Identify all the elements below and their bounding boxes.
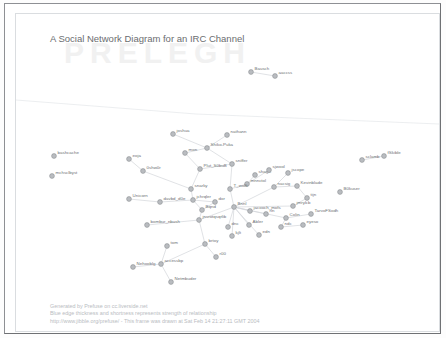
node-dot[interactable]	[131, 265, 136, 270]
graph-node[interactable]: Colin	[284, 212, 301, 221]
graph-node[interactable]: eyeso	[301, 219, 319, 228]
node-label: 0shw0r	[147, 165, 162, 170]
node-dot[interactable]	[200, 208, 205, 213]
node-dot[interactable]	[183, 151, 188, 156]
screenshot-root: PRELEGH A Social Network Diagram for an …	[0, 0, 446, 338]
node-dot[interactable]	[309, 212, 314, 217]
graph-node[interactable]: Netmbuder	[169, 276, 197, 285]
graph-node[interactable]: kjlt	[230, 230, 242, 239]
graph-node[interactable]: Kevinblade	[295, 180, 323, 189]
node-dot[interactable]	[291, 204, 296, 209]
node-dot[interactable]	[264, 212, 269, 217]
node-dot[interactable]	[165, 244, 170, 249]
graph-node[interactable]: fSkible	[382, 150, 402, 159]
node-label: sjwool	[273, 164, 285, 169]
node-label: davbd_d0e	[164, 196, 186, 201]
footer-line-2: Blue edge thickness and shortness repres…	[50, 310, 350, 317]
node-layer[interactable]: bashcachemchsclbystBauschaaccssjoshuanat…	[50, 66, 402, 285]
graph-node[interactable]: eoja	[127, 153, 142, 162]
graph-edge	[274, 186, 297, 187]
graph-node[interactable]: bashcache	[52, 150, 80, 159]
node-dot[interactable]	[338, 190, 343, 195]
node-dot[interactable]	[158, 200, 163, 205]
graph-node[interactable]: Plut_S0buB	[198, 163, 227, 172]
node-dot[interactable]	[50, 174, 55, 179]
node-dot[interactable]	[249, 70, 254, 75]
graph-node[interactable]: bombur_nbush	[145, 219, 181, 228]
node-dot[interactable]	[189, 187, 194, 192]
node-dot[interactable]	[191, 198, 196, 203]
graph-node[interactable]: TarvoFSodh	[309, 208, 339, 217]
graph-node[interactable]: sniffer	[230, 158, 248, 167]
node-label: aaccss	[279, 70, 293, 75]
node-dot[interactable]	[226, 225, 231, 230]
node-label: ndc	[285, 221, 293, 226]
graph-node[interactable]: Nehooblg	[131, 261, 156, 270]
graph-node[interactable]: sjwool	[267, 164, 285, 173]
graph-node[interactable]: brtoy	[203, 238, 220, 247]
graph-node[interactable]: Bqnd	[200, 204, 217, 213]
graph-node[interactable]: snarky	[189, 183, 209, 192]
footer-line-1: Generated by Prefuse on cc.liverside.net	[50, 303, 350, 310]
node-dot[interactable]	[286, 171, 291, 176]
graph-edge	[199, 220, 205, 244]
node-dot[interactable]	[382, 154, 387, 159]
node-dot[interactable]	[267, 168, 272, 173]
node-dot[interactable]	[141, 169, 146, 174]
node-dot[interactable]	[284, 216, 289, 221]
graph-node[interactable]: edn	[257, 229, 271, 238]
graph-node[interactable]: Abler	[247, 219, 264, 228]
node-dot[interactable]	[232, 205, 237, 210]
graph-node[interactable]: mnnctol	[245, 178, 266, 187]
graph-node[interactable]: aaccss	[273, 70, 293, 79]
node-dot[interactable]	[295, 184, 300, 189]
node-dot[interactable]	[169, 280, 174, 285]
graph-node[interactable]: jscope	[286, 167, 305, 176]
diagram-canvas[interactable]: PRELEGH A Social Network Diagram for an …	[16, 14, 439, 331]
node-label: Shiko-Puka	[211, 142, 234, 147]
node-label: snarky	[195, 183, 209, 188]
node-label: sclamb	[366, 154, 380, 159]
node-dot[interactable]	[203, 242, 208, 247]
node-dot[interactable]	[214, 255, 219, 260]
node-dot[interactable]	[205, 146, 210, 151]
node-dot[interactable]	[279, 225, 284, 230]
node-dot[interactable]	[273, 74, 278, 79]
graph-node[interactable]: ndc	[279, 221, 293, 230]
graph-node[interactable]: jnsrotqsqrlib	[197, 214, 227, 223]
graph-node[interactable]: Shiko-Puka	[205, 142, 234, 151]
node-dot[interactable]	[360, 158, 365, 163]
graph-node[interactable]: sclamb	[360, 154, 380, 163]
graph-node[interactable]: 0shw0r	[141, 165, 162, 174]
graph-node[interactable]: nathann	[225, 129, 247, 138]
node-dot[interactable]	[253, 173, 258, 178]
graph-edge	[185, 153, 200, 169]
node-dot[interactable]	[127, 157, 132, 162]
graph-node[interactable]: r00	[214, 251, 227, 260]
node-dot[interactable]	[272, 185, 277, 190]
graph-node[interactable]: tom	[165, 240, 179, 249]
graph-node[interactable]: joshua	[171, 128, 190, 137]
node-dot[interactable]	[228, 187, 233, 192]
node-dot[interactable]	[230, 234, 235, 239]
node-dot[interactable]	[257, 233, 262, 238]
node-dot[interactable]	[171, 132, 176, 137]
node-dot[interactable]	[198, 167, 203, 172]
network-graph[interactable]: bashcachemchsclbystBauschaaccssjoshuanat…	[16, 14, 439, 331]
node-dot[interactable]	[247, 223, 252, 228]
graph-node[interactable]: mchsclbyst	[50, 170, 78, 179]
node-dot[interactable]	[159, 262, 164, 267]
graph-node[interactable]: davbd_d0e	[158, 196, 186, 205]
graph-node[interactable]: B0kuser	[338, 186, 361, 195]
node-dot[interactable]	[127, 197, 132, 202]
node-dot[interactable]	[197, 218, 202, 223]
graph-node[interactable]: nacsig	[272, 181, 291, 190]
node-dot[interactable]	[52, 154, 57, 159]
node-dot[interactable]	[248, 209, 253, 214]
node-dot[interactable]	[145, 223, 150, 228]
node-dot[interactable]	[301, 223, 306, 228]
graph-node[interactable]: mon	[183, 147, 198, 156]
node-dot[interactable]	[230, 162, 235, 167]
graph-node[interactable]: jmrylcb	[291, 200, 311, 209]
node-dot[interactable]	[225, 133, 230, 138]
